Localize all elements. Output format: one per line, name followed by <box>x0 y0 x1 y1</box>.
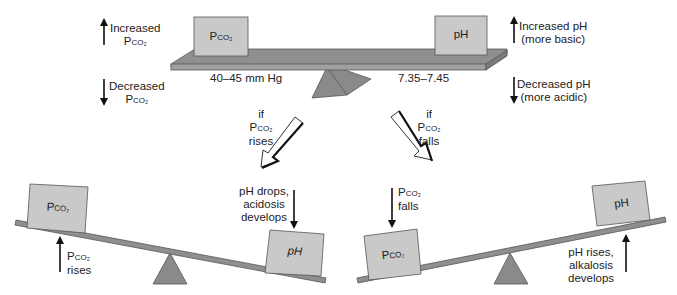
top-fulcrum <box>312 67 371 98</box>
decreased-ph-text: Decreased pH <box>517 78 591 91</box>
falls-text: falls <box>414 135 444 148</box>
more-basic-text: (more basic) <box>519 33 587 46</box>
p-text: P <box>398 186 406 198</box>
increased-ph-text: Increased pH <box>519 20 587 33</box>
decreased-pco2-label: Decreased PCO₂ <box>109 80 165 107</box>
top-ph-box-label: pH <box>435 28 487 40</box>
rises-text: rises <box>246 135 276 148</box>
falls-text: falls <box>398 200 421 213</box>
increased-text: Increased <box>110 22 161 35</box>
p-text: P <box>67 250 75 262</box>
acidosis-text: acidosis <box>239 198 289 211</box>
develops-text: develops <box>568 272 614 285</box>
ph-text: pH <box>613 196 629 210</box>
top-left-range: 40–45 mm Hg <box>210 72 282 85</box>
top-right-range: 7.35–7.45 <box>398 72 449 85</box>
co2-sub: CO₂ <box>406 189 421 198</box>
if-pco2-rises-label: if PCO₂ rises <box>246 108 276 148</box>
top-pco2-box-label: PCO₂ <box>194 30 248 42</box>
co2-sub: CO₂ <box>257 124 272 133</box>
develops-text: develops <box>239 211 289 224</box>
ph-drops-text: pH drops, <box>239 185 289 198</box>
ph-drops-label: pH drops, acidosis develops <box>239 185 289 224</box>
if-text: if <box>246 108 276 121</box>
increased-pco2-label: Increased PCO₂ <box>110 22 161 49</box>
ph-rises-label: pH rises, alkalosis develops <box>568 246 614 285</box>
co2-sub: CO₂ <box>54 204 70 214</box>
more-acidic-text: (more acidic) <box>517 91 591 104</box>
if-text: if <box>414 108 444 121</box>
p-text: P <box>125 93 133 105</box>
alkalosis-text: alkalosis <box>568 259 614 272</box>
decreased-text: Decreased <box>109 80 165 93</box>
co2-sub: CO₂ <box>389 250 405 261</box>
p-text: P <box>124 35 132 47</box>
pco2-rises-label: PCO₂ rises <box>67 250 91 277</box>
ph-text: pH <box>287 245 302 258</box>
co2-sub: CO₂ <box>133 96 148 105</box>
pco2-falls-label: PCO₂ falls <box>398 186 421 213</box>
ph-text: pH <box>454 28 469 40</box>
increased-ph-label: Increased pH (more basic) <box>519 20 587 46</box>
co2-sub: CO₂ <box>132 38 147 47</box>
co2-sub: CO₂ <box>425 124 440 133</box>
pco2-sub: CO₂ <box>217 33 232 42</box>
br-fulcrum <box>494 253 528 284</box>
rises-text: rises <box>67 264 91 277</box>
co2-sub: CO₂ <box>75 253 90 262</box>
if-pco2-falls-label: if PCO₂ falls <box>414 108 444 148</box>
bl-fulcrum <box>153 253 187 284</box>
decreased-ph-label: Decreased pH (more acidic) <box>517 78 591 104</box>
ph-rises-text: pH rises, <box>568 246 614 259</box>
